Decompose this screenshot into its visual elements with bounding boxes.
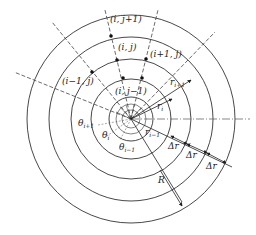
radial-dashed-lines: [14, 10, 215, 119]
label-r-iminus1: ri−1: [145, 127, 160, 138]
label-r-i: ri: [157, 101, 163, 112]
label-cell-iplus1-j: (i+1, j): [150, 49, 182, 59]
polar-grid-diagram: (i, j+1) (i, j) (i+1, j) (i−1, j) (i, j−…: [0, 0, 256, 235]
label-cell-i-jplus1: (i, j+1): [110, 14, 142, 24]
label-cell-iminus1-j: (i−1, j): [62, 76, 94, 86]
label-delta-r-1: Δr: [167, 141, 179, 151]
label-outer-radius: R: [157, 175, 165, 185]
diagram-canvas: (i, j+1) (i, j) (i+1, j) (i−1, j) (i, j−…: [0, 0, 256, 235]
label-cell-i-j: (i, j): [118, 42, 137, 52]
label-r-iplus1: ri+1: [170, 77, 185, 88]
label-theta-iminus1: θi−1: [119, 142, 135, 153]
label-theta-iplus1: θi+1: [78, 118, 94, 129]
label-theta-i: θi: [102, 130, 109, 141]
radius-arrows: [131, 80, 232, 206]
label-cell-i-jminus1: (i, j−1): [115, 86, 147, 96]
label-delta-r-2: Δr: [185, 150, 197, 160]
label-delta-r-3: Δr: [205, 161, 217, 171]
